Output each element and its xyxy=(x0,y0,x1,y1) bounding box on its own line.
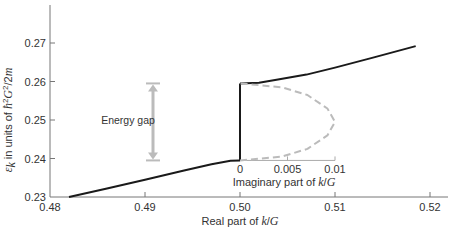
inset-tick-label: 0.005 xyxy=(274,163,302,175)
y-tick-label: 0.27 xyxy=(25,37,46,49)
x-tick-label: 0.50 xyxy=(229,201,250,213)
x-ticks: 0.480.490.500.510.52 xyxy=(39,192,440,213)
energy-gap-label: Energy gap xyxy=(101,114,155,126)
arrow-head-down xyxy=(148,152,158,159)
y-tick-label: 0.24 xyxy=(25,153,46,165)
inset-x-axis-label: Imaginary part of k/G xyxy=(233,175,336,189)
series-line-0 xyxy=(69,160,240,197)
inset-tick-label: 0.01 xyxy=(324,163,345,175)
y-tick-label: 0.26 xyxy=(25,76,46,88)
x-axis-label: Real part of k/G xyxy=(202,214,279,228)
series-line-2 xyxy=(240,46,416,83)
y-tick-label: 0.23 xyxy=(25,191,46,203)
y-tick-label: 0.25 xyxy=(25,114,46,126)
x-tick-label: 0.52 xyxy=(419,201,440,213)
axes xyxy=(50,5,448,197)
x-tick-label: 0.51 xyxy=(324,201,345,213)
x-tick-label: 0.49 xyxy=(134,201,155,213)
inset-tick-label: 0 xyxy=(237,163,243,175)
chart: 0.480.490.500.510.52 0.230.240.250.260.2… xyxy=(0,0,458,235)
arrow-head-up xyxy=(148,84,158,91)
inset-series-dashed xyxy=(240,83,335,160)
y-axis-label: εk in units of ħ2G2/2m xyxy=(1,67,18,172)
